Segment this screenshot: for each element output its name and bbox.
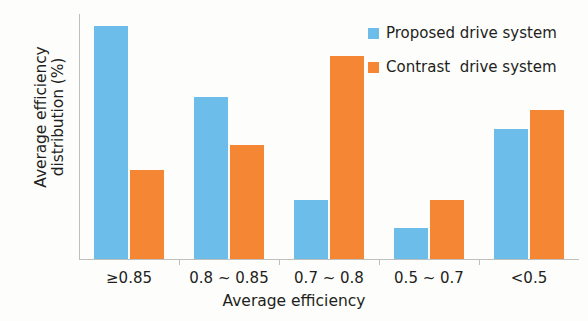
bar [230,145,264,259]
bar [130,170,164,259]
x-axis-category-label: 0.8 ~ 0.85 [179,269,279,287]
y-axis-title: Average efficiency distribution (%) [28,0,72,242]
x-axis-category-label: ≥0.85 [79,269,179,287]
y-axis-title-line-2: distribution (%) [50,58,67,176]
x-axis-title: Average efficiency [0,292,588,310]
bar [94,26,128,259]
legend-entry: Contrast drive system [368,58,557,76]
chart-legend: Proposed drive systemContrast drive syst… [368,24,557,76]
legend-swatch-icon [368,62,379,73]
bar [194,97,228,259]
x-axis-line [79,259,579,260]
y-axis-title-line-1: Average efficiency [33,46,50,187]
x-axis-category-label: <0.5 [479,269,579,287]
bar [530,110,564,259]
x-axis-tick-mark [379,259,380,265]
bar [430,200,464,259]
bar [394,228,428,259]
bar [494,129,528,259]
x-axis-category-label: 0.5 ~ 0.7 [379,269,479,287]
x-axis-tick-mark [279,259,280,265]
bar [330,56,364,259]
legend-entry: Proposed drive system [368,24,557,42]
legend-label: Contrast drive system [386,58,557,76]
legend-swatch-icon [368,28,379,39]
bar-chart: Average efficiency distribution (%) 0510… [0,0,588,321]
bar [294,200,328,259]
x-axis-category-label: 0.7 ~ 0.8 [279,269,379,287]
legend-label: Proposed drive system [386,24,557,42]
x-axis-tick-mark [479,259,480,265]
x-axis-tick-mark [179,259,180,265]
